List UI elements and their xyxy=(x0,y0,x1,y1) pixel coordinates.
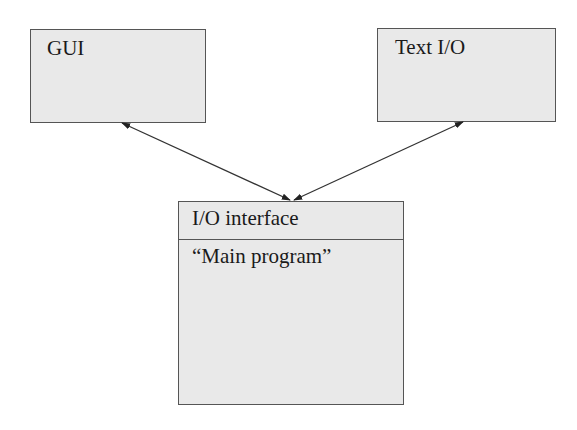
connector-arrows xyxy=(0,0,577,430)
gui-to-main-arrow xyxy=(122,123,290,200)
textio-to-main-arrow xyxy=(294,122,463,200)
